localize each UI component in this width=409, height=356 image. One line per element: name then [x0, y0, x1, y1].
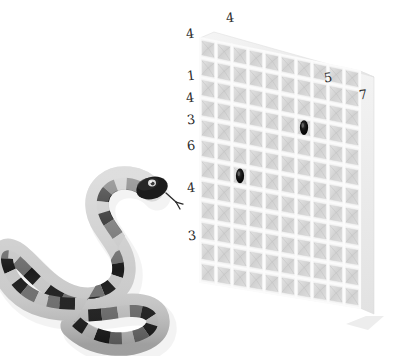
annotation-left-4a: 4 — [185, 91, 195, 105]
annotation-top-right-5: 5 — [323, 71, 333, 85]
annotation-left-1: 1 — [186, 69, 196, 83]
annotation-left-3a: 3 — [186, 113, 196, 127]
mark-lower — [236, 168, 244, 183]
annotation-left-6: 6 — [186, 139, 196, 153]
annotation-top-4: 4 — [225, 11, 235, 25]
mark-upper-highlight — [302, 123, 304, 128]
perspective-grid-panel — [196, 16, 386, 336]
scene-canvas: 4457143643 — [0, 0, 409, 356]
mark-lower-highlight — [238, 171, 240, 176]
annotation-top-right-7: 7 — [358, 88, 368, 102]
mark-upper — [300, 120, 308, 135]
panel-side-face — [360, 71, 374, 314]
snake-svg — [0, 160, 200, 356]
annotation-top-left-4: 4 — [185, 27, 195, 41]
grid-panel-svg — [196, 16, 386, 336]
panel-shadow — [346, 316, 384, 330]
banded-snake — [0, 160, 200, 356]
